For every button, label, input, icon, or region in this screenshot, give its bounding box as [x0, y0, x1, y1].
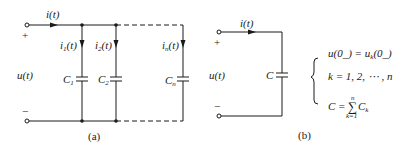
voltage-label: u(t)	[209, 69, 225, 82]
capacitor-label-2: C2	[98, 73, 109, 87]
equation-initial-voltage: u(0_) = uk(0_)	[328, 47, 392, 61]
sum-term: Ck	[358, 100, 369, 114]
branch-current-label-1: i1(t)	[60, 39, 77, 53]
minus-sign: −	[214, 100, 220, 112]
capacitor-label: C	[266, 69, 274, 81]
figure-b: i(t) + − u(t) C u(0_) = uk(0_) k = 1, 2,…	[209, 17, 393, 142]
brace-icon	[311, 58, 318, 104]
caption-b: (b)	[298, 129, 311, 142]
equation-total-capacitance: C =	[328, 100, 346, 112]
plus-sign: +	[22, 29, 28, 41]
branch-current-arrow-icon	[80, 40, 85, 48]
plus-sign: +	[214, 36, 220, 48]
branch-current-label-n: in(t)	[162, 39, 179, 53]
branch-current-label-2: i2(t)	[95, 39, 112, 53]
equation-index-range: k = 1, 2, ⋯ , n	[328, 70, 393, 82]
sum-upper-limit: n	[351, 94, 355, 102]
branch-current-arrow-icon	[114, 40, 119, 48]
top-terminal	[25, 23, 29, 27]
caption-a: (a)	[88, 130, 101, 143]
figure-a: i(t) + − u(t) i1(t) i2(t) in(t) C1 C2 Cn…	[17, 8, 189, 143]
minus-sign: −	[22, 105, 28, 117]
capacitor-label-n: Cn	[165, 74, 176, 88]
bottom-terminal	[217, 114, 221, 118]
bottom-terminal	[25, 119, 29, 123]
source-current-label: i(t)	[46, 8, 60, 21]
source-current-label: i(t)	[240, 17, 254, 30]
top-terminal	[217, 30, 221, 34]
branch-current-arrow-icon	[181, 40, 186, 48]
voltage-label: u(t)	[17, 69, 33, 82]
circuit-diagram: i(t) + − u(t) i1(t) i2(t) in(t) C1 C2 Cn…	[0, 0, 408, 155]
current-arrow-icon	[50, 23, 58, 28]
current-arrow-icon	[248, 30, 256, 35]
sum-lower-limit: k=1	[346, 112, 357, 120]
capacitor-label-1: C1	[63, 73, 74, 87]
